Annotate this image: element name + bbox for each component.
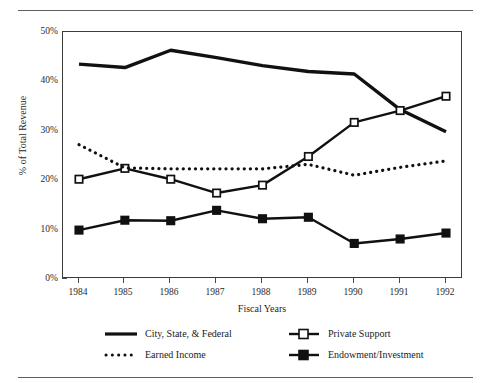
x-tickmark (261, 278, 262, 283)
plot-area (62, 31, 462, 278)
x-tick-label: 1992 (420, 287, 470, 298)
y-tick-label: 0% (22, 273, 58, 283)
data-point-marker (396, 235, 403, 242)
series-private-support (75, 93, 449, 197)
x-tickmark (215, 278, 216, 283)
x-tickmark (169, 278, 170, 283)
data-point-marker (167, 176, 174, 183)
data-point-marker (396, 107, 403, 114)
data-point-marker (351, 240, 358, 247)
x-tick-label: 1990 (328, 287, 378, 298)
legend-item-earned-income: Earned Income (104, 349, 206, 361)
figure-container: 50% 40% 30% 20% 10% 0% % of Total Revenu… (0, 0, 489, 383)
legend-item-city-state-federal: City, State, & Federal (104, 328, 232, 340)
x-tick-label: 1987 (190, 287, 240, 298)
legend-item-private-support: Private Support (287, 328, 391, 340)
data-point-marker (75, 226, 82, 233)
series-line (79, 50, 446, 132)
data-point-marker (442, 229, 449, 236)
data-point-marker (305, 153, 312, 160)
top-rule (18, 10, 473, 11)
x-axis-title: Fiscal Years (62, 303, 462, 314)
x-tickmark (445, 278, 446, 283)
x-tickmark (78, 278, 79, 283)
y-axis-title: % of Total Revenue (17, 56, 28, 216)
chart-legend: City, State, & Federal Private Support E… (104, 328, 464, 370)
data-point-marker (442, 93, 449, 100)
x-tick-label: 1985 (98, 287, 148, 298)
x-tick-label: 1984 (53, 287, 103, 298)
dotted-line-icon (104, 349, 138, 361)
series-line (79, 96, 446, 193)
x-tick-label: 1989 (282, 287, 332, 298)
data-point-marker (305, 214, 312, 221)
thick-line-icon (104, 328, 138, 340)
y-tick-label: 10% (22, 224, 58, 234)
x-tickmark (399, 278, 400, 283)
series-layer (75, 50, 449, 247)
legend-label: Earned Income (145, 349, 206, 361)
data-point-marker (259, 181, 266, 188)
data-point-marker (213, 189, 220, 196)
data-point-marker (75, 176, 82, 183)
x-tick-label: 1986 (144, 287, 194, 298)
data-point-marker (121, 217, 128, 224)
data-point-marker (351, 119, 358, 126)
legend-label: Private Support (328, 328, 391, 340)
legend-label: Endowment/Investment (328, 349, 424, 361)
bottom-rule (18, 377, 473, 378)
line-filled-square-icon (287, 349, 321, 361)
y-tick-label: 50% (22, 26, 58, 36)
chart-svg (63, 32, 463, 279)
x-tickmark (123, 278, 124, 283)
legend-label: City, State, & Federal (145, 328, 232, 340)
line-open-square-icon (287, 328, 321, 340)
x-tickmark (307, 278, 308, 283)
legend-item-endowment-investment: Endowment/Investment (287, 349, 424, 361)
series-endowment-investment (75, 207, 449, 247)
x-tickmark (353, 278, 354, 283)
x-tick-label: 1988 (236, 287, 286, 298)
data-point-marker (167, 217, 174, 224)
series-city-state-federal (79, 50, 446, 132)
x-tick-label: 1991 (374, 287, 424, 298)
data-point-marker (213, 207, 220, 214)
data-point-marker (259, 215, 266, 222)
